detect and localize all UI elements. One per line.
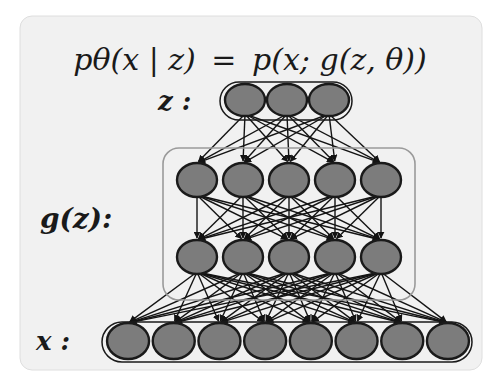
observed-node-6 (336, 323, 378, 359)
hidden-1-node-5 (361, 163, 401, 197)
observed-node-4 (244, 323, 286, 359)
generator-label: g(z): (40, 202, 112, 235)
observed-node-2 (153, 323, 195, 359)
hidden-1-node-1 (177, 163, 217, 197)
latent-node-3 (309, 84, 349, 116)
observed-node-1 (107, 323, 149, 359)
formula-rhs: p(x; g(z, θ)) (252, 42, 427, 77)
latent-node-2 (267, 84, 307, 116)
observed-node-5 (290, 323, 332, 359)
observed-layer-label: x : (35, 326, 70, 356)
generative-network-diagram: pθ(x | z) = p(x; g(z, θ)) z : g(z): x : (0, 0, 500, 391)
hidden-1-node-3 (269, 163, 309, 197)
hidden-2-node-2 (223, 240, 263, 274)
formula-equals: = (211, 42, 236, 77)
observed-node-3 (198, 323, 240, 359)
hidden-1-node-2 (223, 163, 263, 197)
hidden-2-node-3 (269, 240, 309, 274)
latent-layer-label: z : (157, 86, 191, 116)
formula-lhs: pθ(x | z) (73, 42, 196, 77)
observed-node-8 (427, 323, 469, 359)
hidden-2-node-1 (177, 240, 217, 274)
hidden-2-node-5 (361, 240, 401, 274)
observed-node-7 (381, 323, 423, 359)
hidden-2-node-4 (315, 240, 355, 274)
latent-node-1 (225, 84, 265, 116)
hidden-1-node-4 (315, 163, 355, 197)
